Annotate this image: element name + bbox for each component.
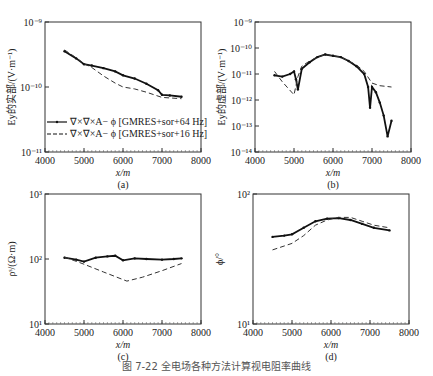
x-tick-label: 6000 [113, 155, 133, 166]
x-tick-label: 5000 [74, 327, 94, 338]
y-tick-label: 10⁻¹⁴ [231, 147, 253, 158]
x-tick-label: 8000 [399, 327, 419, 338]
chart-c: 4000500060007000800010³10²10¹x/m(c)ρˢ/(Ω… [6, 189, 211, 363]
y-tick-label: 10⁻¹² [231, 95, 252, 106]
x-tick-label: 6000 [323, 155, 343, 166]
y-tick-label: 10⁻¹¹ [231, 69, 252, 80]
series-line-64hz [65, 51, 182, 97]
y-tick-label: 10⁻¹¹ [21, 147, 42, 158]
figure-caption: 图 7-22 全电场各种方法计算视电阻率曲线 [0, 358, 433, 373]
y-tick-label: 10⁻¹⁰ [20, 82, 42, 93]
y-tick-label: 10¹ [29, 319, 42, 330]
subfigure-label: (b) [327, 179, 339, 191]
x-tick-label: 6000 [321, 327, 341, 338]
chart-d: 4000500060007000800010²10¹x/m(d)ϕ/° [214, 189, 419, 363]
x-tick-label: 6000 [113, 327, 133, 338]
y-tick-label: 10⁻¹⁰ [230, 43, 252, 54]
x-axis-label: x/m [115, 167, 130, 178]
x-tick-label: 8000 [401, 155, 421, 166]
y-tick-label: 10³ [29, 189, 42, 200]
legend-item-16hz: ∇×∇×A− ϕ [GMRES+sor+16 Hz] [69, 128, 207, 139]
x-tick-label: 7000 [360, 327, 380, 338]
x-axis-label: x/m [323, 339, 338, 350]
y-tick-label: 10² [29, 254, 42, 265]
y-axis-label: ρˢ/(Ω·m) [6, 241, 18, 276]
series-line-16hz [273, 217, 390, 250]
x-tick-label: 5000 [284, 155, 304, 166]
x-axis-label: x/m [115, 339, 130, 350]
x-tick-label: 7000 [362, 155, 382, 166]
y-tick-label: 10⁻⁹ [234, 17, 253, 28]
x-tick-label: 5000 [282, 327, 302, 338]
chart-a: 4000500060007000800010⁻⁹10⁻¹⁰10⁻¹¹x/m(a)… [5, 17, 211, 191]
y-axis-label: ϕ/° [214, 253, 225, 265]
legend-item-64hz: ∇×∇×A− ϕ [GMRES+sor+64 Hz] [69, 116, 207, 127]
x-tick-label: 7000 [152, 327, 172, 338]
y-tick-label: 10⁻⁹ [24, 17, 43, 28]
y-tick-label: 10⁻¹³ [231, 121, 252, 132]
chart-b: 4000500060007000800010⁻⁹10⁻¹⁰10⁻¹¹10⁻¹²1… [215, 17, 421, 191]
y-tick-label: 10² [237, 189, 250, 200]
plot-frame [253, 194, 409, 324]
x-tick-label: 5000 [74, 155, 94, 166]
x-tick-label: 7000 [152, 155, 172, 166]
x-tick-label: 8000 [191, 155, 211, 166]
series-line-64hz [275, 55, 392, 137]
x-tick-label: 8000 [191, 327, 211, 338]
x-axis-label: x/m [325, 167, 340, 178]
series-line-64hz [273, 218, 390, 237]
figure-canvas: 4000500060007000800010⁻⁹10⁻¹⁰10⁻¹¹x/m(a)… [0, 0, 433, 376]
subfigure-label: (a) [117, 179, 128, 191]
y-axis-label: Ey的实部/(V·m⁻¹) [5, 49, 18, 126]
y-axis-label: Ey的虚部/(V·m⁻¹) [215, 49, 228, 126]
y-tick-label: 10¹ [237, 319, 250, 330]
